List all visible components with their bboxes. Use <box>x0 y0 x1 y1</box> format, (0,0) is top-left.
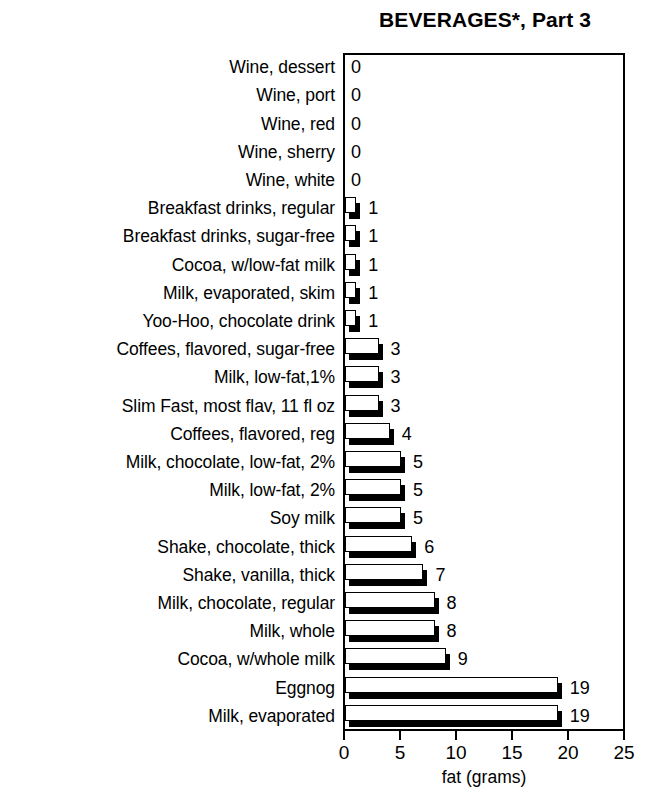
bar-row: Wine, dessert0 <box>0 53 669 81</box>
bar-face <box>345 705 558 721</box>
bar-face <box>345 282 356 298</box>
bar-face <box>345 366 379 382</box>
x-tick-label: 15 <box>501 742 522 763</box>
category-label: Cocoa, w/whole milk <box>177 650 335 669</box>
bar-row: Cocoa, w/whole milk9 <box>0 645 669 673</box>
bar-face <box>345 536 412 552</box>
bar-row: Soy milk5 <box>0 504 669 532</box>
category-label: Milk, low-fat, 2% <box>209 481 335 500</box>
category-label: Wine, port <box>256 86 335 105</box>
x-tick-mark <box>623 731 625 740</box>
category-label: Wine, sherry <box>238 142 335 161</box>
bar-row: Milk, chocolate, low-fat, 2%5 <box>0 448 669 476</box>
bar-value-label: 0 <box>351 86 361 105</box>
bar <box>345 423 390 445</box>
bar-value-label: 1 <box>368 255 378 274</box>
bar <box>345 677 558 699</box>
bar-face <box>345 564 423 580</box>
bar-value-label: 1 <box>368 199 378 218</box>
bar-row: Milk, chocolate, regular8 <box>0 589 669 617</box>
category-label: Milk, evaporated, skim <box>163 283 335 302</box>
bar-face <box>345 648 446 664</box>
x-tick-label: 0 <box>339 742 350 763</box>
category-label: Soy milk <box>270 509 335 528</box>
bar-face <box>345 310 356 326</box>
bar-row: Coffees, flavored, reg4 <box>0 420 669 448</box>
bar-row: Wine, sherry0 <box>0 138 669 166</box>
category-label: Milk, chocolate, regular <box>157 594 335 613</box>
bar <box>345 705 558 727</box>
bar-row: Milk, evaporated19 <box>0 702 669 730</box>
bar-rows-container: Wine, dessert0Wine, port0Wine, red0Wine,… <box>0 53 669 730</box>
bar-face <box>345 479 401 495</box>
bar-value-label: 4 <box>402 424 412 443</box>
category-label: Shake, vanilla, thick <box>182 565 335 584</box>
x-axis-line <box>343 729 625 731</box>
x-tick-mark <box>399 731 401 740</box>
bar <box>345 197 356 219</box>
bar-face <box>345 197 356 213</box>
bar-value-label: 5 <box>413 509 423 528</box>
category-label: Eggnog <box>275 678 335 697</box>
bar-row: Yoo-Hoo, chocolate drink1 <box>0 307 669 335</box>
category-label: Cocoa, w/low-fat milk <box>172 255 335 274</box>
bar-value-label: 5 <box>413 481 423 500</box>
x-tick-mark <box>511 731 513 740</box>
category-label: Breakfast drinks, sugar-free <box>123 227 335 246</box>
chart-title: BEVERAGES*, Part 3 <box>343 8 627 32</box>
bar-value-label: 6 <box>424 537 434 556</box>
bar <box>345 648 446 670</box>
bar-face <box>345 451 401 467</box>
bar-value-label: 0 <box>351 142 361 161</box>
x-tick-label: 5 <box>395 742 406 763</box>
category-label: Coffees, flavored, sugar-free <box>116 340 335 359</box>
bar-face <box>345 338 379 354</box>
bar <box>345 395 379 417</box>
category-label: Milk, whole <box>250 622 335 641</box>
bar-value-label: 1 <box>368 283 378 302</box>
bar-value-label: 19 <box>570 706 590 725</box>
category-label: Milk, chocolate, low-fat, 2% <box>126 453 335 472</box>
bar-row: Wine, port0 <box>0 81 669 109</box>
bar-value-label: 1 <box>368 311 378 330</box>
category-label: Breakfast drinks, regular <box>148 199 335 218</box>
bar-value-label: 3 <box>391 396 401 415</box>
bar-face <box>345 225 356 241</box>
bar-value-label: 8 <box>447 622 457 641</box>
bar-value-label: 9 <box>458 650 468 669</box>
bar-row: Eggnog19 <box>0 674 669 702</box>
bar-row: Shake, vanilla, thick7 <box>0 561 669 589</box>
bar-value-label: 1 <box>368 227 378 246</box>
bar-row: Coffees, flavored, sugar-free3 <box>0 335 669 363</box>
category-label: Yoo-Hoo, chocolate drink <box>143 311 336 330</box>
x-tick-label: 20 <box>557 742 578 763</box>
bar-row: Breakfast drinks, sugar-free1 <box>0 222 669 250</box>
category-label: Wine, red <box>261 114 335 133</box>
x-tick-mark <box>455 731 457 740</box>
bar-row: Milk, evaporated, skim1 <box>0 279 669 307</box>
bar-row: Slim Fast, most flav, 11 fl oz3 <box>0 392 669 420</box>
bar <box>345 592 435 614</box>
bar-value-label: 3 <box>391 368 401 387</box>
bar <box>345 536 412 558</box>
category-label: Wine, white <box>246 170 335 189</box>
beverages-fat-bar-chart: BEVERAGES*, Part 3 Wine, dessert0Wine, p… <box>0 0 669 810</box>
bar-face <box>345 395 379 411</box>
bar-row: Breakfast drinks, regular1 <box>0 194 669 222</box>
bar-value-label: 0 <box>351 170 361 189</box>
bar-face <box>345 423 390 439</box>
bar-value-label: 3 <box>391 340 401 359</box>
bar-value-label: 0 <box>351 114 361 133</box>
x-tick-mark <box>343 731 345 740</box>
bar-face <box>345 507 401 523</box>
bar <box>345 479 401 501</box>
bar-face <box>345 677 558 693</box>
bar-row: Milk, whole8 <box>0 617 669 645</box>
bar-row: Shake, chocolate, thick6 <box>0 533 669 561</box>
bar-face <box>345 620 435 636</box>
x-axis-title: fat (grams) <box>343 767 625 788</box>
bar <box>345 620 435 642</box>
category-label: Shake, chocolate, thick <box>157 537 335 556</box>
category-label: Coffees, flavored, reg <box>170 424 335 443</box>
category-label: Wine, dessert <box>229 58 335 77</box>
